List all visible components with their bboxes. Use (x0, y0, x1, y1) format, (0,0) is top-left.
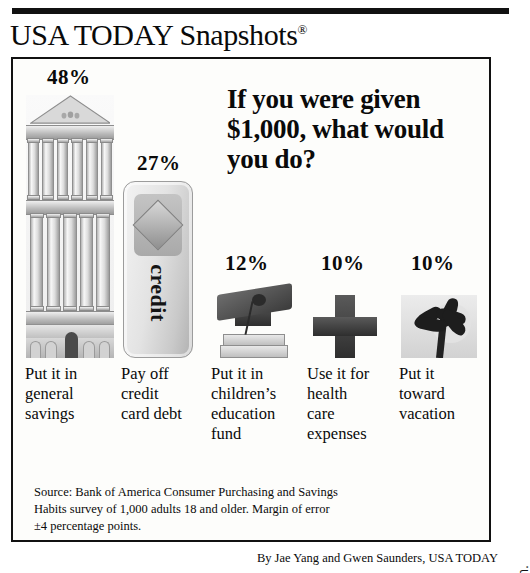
credit-card-word: credit (145, 264, 171, 322)
graduation-cap-icon (215, 281, 293, 358)
brand-title: USA TODAY Snapshots® (10, 18, 307, 52)
bank-building-icon (26, 95, 114, 358)
chart-column-health-care: 10% Use it for health care expenses (305, 59, 391, 479)
medical-cross-icon (313, 295, 377, 358)
category-label-health-care: Use it for health care expenses (307, 364, 395, 445)
value-label-vacation: 10% (411, 251, 455, 276)
top-divider-rule (12, 8, 509, 14)
chart-column-savings: 48% (23, 59, 115, 479)
credit-card-icon: credit (123, 181, 193, 358)
value-label-credit-card: 27% (137, 151, 181, 176)
book-top-shape (223, 334, 285, 346)
value-label-savings: 48% (47, 65, 91, 90)
mortarboard-button-shape (252, 294, 266, 306)
brand-title-text: USA TODAY Snapshots (10, 18, 297, 51)
book-bottom-shape (220, 345, 289, 358)
byline: By Jae Yang and Gwen Saunders, USA TODAY (0, 551, 498, 566)
chart-column-credit-card: 27% credit Pay off credit card debt (119, 59, 201, 479)
snapshot-panel: If you were given $1,000, what would you… (11, 57, 491, 542)
pictograph-columns: 48% (23, 59, 485, 479)
reprint-credit-line: USA Today. June 29, 2009. Reprinted with… (515, 565, 530, 573)
chart-column-vacation: 10% Put it toward vacation (397, 59, 485, 479)
card-chip-icon (134, 194, 183, 256)
pediment-shape (30, 95, 111, 125)
value-label-education: 12% (225, 251, 269, 276)
chart-column-education: 12% Put it in children’s education fund (209, 59, 297, 479)
registered-trademark-icon: ® (297, 22, 307, 37)
category-label-savings: Put it in general savings (25, 364, 117, 424)
cross-horizontal-bar (313, 317, 377, 336)
category-label-credit-card: Pay off credit card debt (121, 364, 209, 424)
category-label-vacation: Put it toward vacation (399, 364, 489, 424)
value-label-health-care: 10% (321, 251, 365, 276)
card-chip-diamond-icon (133, 200, 184, 251)
source-note: Source: Bank of America Consumer Purchas… (34, 484, 454, 535)
palm-tree-icon (401, 295, 477, 358)
category-label-education: Put it in children’s education fund (211, 364, 303, 445)
